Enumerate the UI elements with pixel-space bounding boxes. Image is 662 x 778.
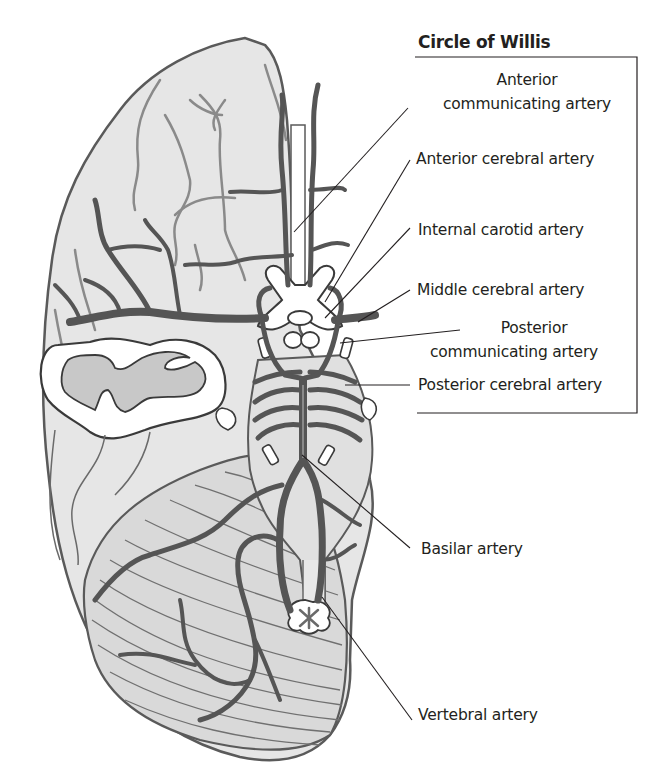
label-basilar-artery: Basilar artery — [421, 537, 523, 561]
label-line: Posterior — [408, 316, 620, 340]
label-posterior-communicating-artery: Posterior communicating artery — [408, 316, 620, 364]
leader-middle-cerebral — [358, 290, 410, 322]
leader-anterior-cerebral — [325, 160, 410, 302]
circle-of-willis-diagram: Circle of Willis Anterior communicating … — [0, 0, 662, 778]
label-line: communicating artery — [418, 92, 636, 116]
label-posterior-cerebral-artery: Posterior cerebral artery — [418, 373, 602, 397]
label-anterior-cerebral-artery: Anterior cerebral artery — [416, 147, 594, 171]
label-internal-carotid-artery: Internal carotid artery — [418, 218, 584, 242]
label-line: Anterior — [418, 68, 636, 92]
label-anterior-communicating-artery: Anterior communicating artery — [418, 68, 636, 116]
diagram-title: Circle of Willis — [418, 32, 550, 52]
label-vertebral-artery: Vertebral artery — [418, 703, 538, 727]
label-line: communicating artery — [408, 340, 620, 364]
label-middle-cerebral-artery: Middle cerebral artery — [417, 278, 584, 302]
